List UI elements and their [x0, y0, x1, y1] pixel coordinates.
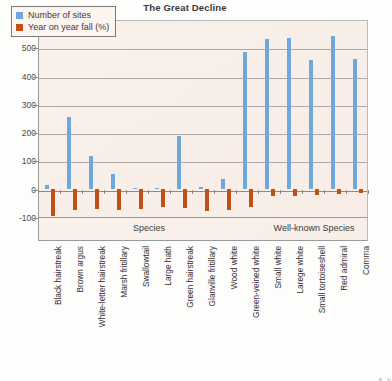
- bar: [117, 189, 122, 210]
- x-axis-tick: [302, 190, 303, 194]
- category-label: Large hath: [163, 246, 173, 286]
- category-label: Small tortoiseshell: [317, 246, 327, 313]
- bar: [67, 117, 72, 188]
- bar: [359, 189, 364, 193]
- bar: [183, 189, 188, 208]
- legend-label-number-of-sites: Number of sites: [28, 10, 91, 20]
- y-axis-tick-mark: [33, 105, 38, 106]
- x-axis-tick: [368, 190, 369, 194]
- gridline: [39, 78, 367, 79]
- category-label: Swallowtail: [141, 246, 151, 287]
- bar: [89, 156, 94, 189]
- x-axis-tick: [192, 190, 193, 194]
- x-axis-tick: [104, 190, 105, 194]
- y-axis-tick-mark: [33, 133, 38, 134]
- group-label: Species: [39, 223, 259, 233]
- bar: [265, 39, 270, 188]
- legend-swatch-blue: [16, 12, 23, 19]
- bar: [51, 189, 56, 217]
- x-axis-tick: [170, 190, 171, 194]
- bar: [227, 189, 232, 210]
- category-label: Small white: [273, 246, 283, 288]
- legend-swatch-red: [16, 24, 23, 31]
- x-axis-tick: [258, 190, 259, 194]
- bar: [73, 189, 78, 210]
- bar: [45, 185, 50, 188]
- x-axis-tick: [60, 190, 61, 194]
- y-axis-tick-mark: [33, 161, 38, 162]
- bar: [331, 36, 336, 188]
- bar: [177, 136, 182, 189]
- category-label: Green hairstreak: [185, 246, 195, 308]
- bar: [353, 59, 358, 189]
- bar: [133, 188, 138, 189]
- bar: [309, 60, 314, 189]
- y-axis-tick-mark: [33, 77, 38, 78]
- category-label: Brown argus: [75, 246, 85, 293]
- group-label-band: SpeciesWell-known Species: [38, 218, 368, 241]
- bar: [243, 52, 248, 189]
- category-label: Wood white: [229, 246, 239, 289]
- bar: [155, 188, 160, 189]
- gridline: [39, 49, 367, 50]
- bar: [337, 189, 342, 194]
- category-label: Red admiral: [339, 246, 349, 291]
- bar: [199, 187, 204, 189]
- bar: [205, 189, 210, 212]
- x-axis-tick: [236, 190, 237, 194]
- gridline: [39, 106, 367, 107]
- y-axis-tick-label: 400: [2, 72, 36, 82]
- y-axis-tick-label: -100: [2, 213, 36, 223]
- x-axis-tick: [126, 190, 127, 194]
- chart-figure: The Great Decline 6005004003002001000-10…: [0, 0, 392, 381]
- category-label: Glanville fritillary: [207, 246, 217, 306]
- category-label: Black hairstreak: [53, 246, 63, 305]
- x-axis-tick: [82, 190, 83, 194]
- bar: [139, 189, 144, 209]
- category-label: White-letter hairstreak: [97, 246, 107, 327]
- x-axis-tick: [214, 190, 215, 194]
- x-axis-tick: [148, 190, 149, 194]
- plot-area: [38, 20, 368, 218]
- bar: [161, 189, 166, 208]
- bar: [111, 174, 116, 189]
- y-axis-tick-label: 100: [2, 156, 36, 166]
- y-axis-tick-mark: [33, 48, 38, 49]
- group-label: Well-known Species: [259, 223, 369, 233]
- bar: [287, 38, 292, 188]
- legend-item-year-on-year-fall: Year on year fall (%): [16, 21, 109, 33]
- category-label: Marsh fritillary: [119, 246, 129, 298]
- y-axis-tick-label: 0: [2, 185, 36, 195]
- gridline: [39, 134, 367, 135]
- y-axis-tick-label: 500: [2, 43, 36, 53]
- x-axis-tick: [280, 190, 281, 194]
- legend-item-number-of-sites: Number of sites: [16, 9, 109, 21]
- category-label: Green-veined white: [251, 246, 261, 318]
- y-axis-tick-label: 200: [2, 128, 36, 138]
- bar: [293, 189, 298, 197]
- x-axis-tick: [38, 190, 39, 194]
- bar: [271, 189, 276, 196]
- bar: [95, 189, 100, 209]
- x-axis-tick: [324, 190, 325, 194]
- bar: [221, 179, 226, 188]
- category-label: Larege white: [295, 246, 305, 294]
- y-axis-tick-label: 300: [2, 100, 36, 110]
- bar: [249, 189, 254, 208]
- x-axis-tick: [346, 190, 347, 194]
- bar: [315, 189, 320, 196]
- legend: Number of sites Year on year fall (%): [11, 6, 116, 37]
- category-label: Comma: [361, 246, 371, 275]
- legend-label-year-on-year-fall: Year on year fall (%): [28, 22, 109, 32]
